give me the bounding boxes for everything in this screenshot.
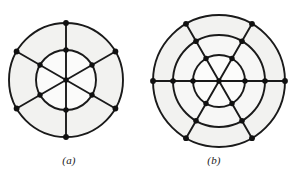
node — [239, 38, 245, 44]
node — [14, 106, 20, 112]
graph-figure-svg — [0, 0, 299, 182]
node — [193, 118, 199, 124]
node — [89, 92, 94, 97]
node — [262, 78, 268, 84]
node — [37, 62, 42, 67]
node — [282, 78, 288, 84]
node — [150, 78, 156, 84]
node — [183, 21, 189, 27]
node — [63, 47, 68, 52]
node — [229, 101, 234, 106]
node — [203, 101, 208, 106]
node — [113, 106, 119, 112]
node — [242, 78, 247, 83]
node — [170, 78, 176, 84]
node — [249, 135, 255, 141]
node — [183, 135, 189, 141]
node — [229, 56, 234, 61]
node — [14, 49, 20, 55]
node — [239, 118, 245, 124]
node — [63, 20, 69, 26]
panel-a-node-center — [63, 77, 68, 82]
node — [37, 92, 42, 97]
node — [193, 38, 199, 44]
node — [63, 134, 69, 140]
node — [249, 21, 255, 27]
panel-a — [9, 20, 123, 140]
figure-caption-a: (a) — [49, 154, 89, 166]
panel-b — [150, 15, 288, 147]
node — [203, 56, 208, 61]
figure-page: (a) (b) — [0, 0, 299, 182]
node — [89, 62, 94, 67]
panel-b-node-center — [216, 78, 221, 83]
node — [63, 107, 68, 112]
node — [190, 78, 195, 83]
figure-caption-b: (b) — [194, 154, 234, 166]
node — [113, 49, 119, 55]
